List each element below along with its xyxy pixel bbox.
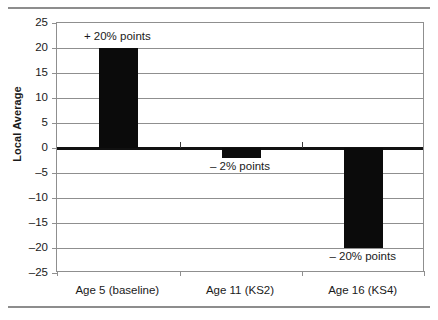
plot-area [56, 22, 424, 272]
y-tick-label: –10 [4, 191, 48, 203]
y-tick-label: 25 [4, 16, 48, 28]
y-tick-label: –15 [4, 216, 48, 228]
y-tick-label: –25 [4, 266, 48, 278]
x-tick-mark [180, 142, 181, 148]
y-tick-label: 15 [4, 66, 48, 78]
bar-value-annotation: + 20% points [84, 30, 151, 42]
y-tick-label: 20 [4, 41, 48, 53]
y-tick-label: 5 [4, 116, 48, 128]
x-tick-mark-bottom [424, 271, 425, 276]
x-tick-mark [302, 142, 303, 148]
x-tick-mark-bottom [180, 271, 181, 276]
y-tick-label: –5 [4, 166, 48, 178]
bar-value-annotation: – 2% points [210, 160, 270, 172]
x-axis-category-label: Age 5 (baseline) [75, 284, 159, 296]
bar-chart-figure: Local Average 2520151050–5–10–15–20–25 +… [0, 0, 438, 320]
x-tick-layer [57, 23, 423, 271]
x-tick-mark-bottom [57, 271, 58, 276]
x-axis-category-label: Age 16 (KS4) [328, 284, 397, 296]
y-tick-label: 0 [4, 141, 48, 153]
x-tick-mark-bottom [302, 271, 303, 276]
y-tick-label: 10 [4, 91, 48, 103]
x-axis-category-label: Age 11 (KS2) [206, 284, 274, 296]
bar-value-annotation: – 20% points [329, 250, 396, 262]
y-tick-label: –20 [4, 241, 48, 253]
